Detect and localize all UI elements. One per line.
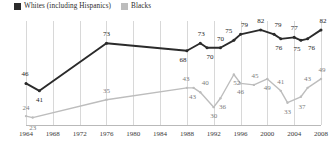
data-point-whites-2004 [293,36,296,39]
legend-label-blacks: Blacks [131,3,151,10]
legend-swatch-whites [14,3,21,10]
x-tick-1964: 1964 [19,131,33,138]
data-point-whites-1991 [206,46,209,49]
data-point-blacks-2002 [280,90,282,92]
x-tick-1988: 1988 [180,131,194,138]
series-lines [26,21,321,125]
value-label-blacks-1964: 24 [23,105,30,112]
data-point-whites-1999 [259,28,262,31]
data-point-whites-1964 [25,82,28,85]
value-label-whites-1966: 41 [36,96,43,103]
legend-swatch-blacks [121,3,128,10]
data-point-blacks-1989 [192,87,194,89]
value-label-blacks-1976: 35 [103,87,110,94]
x-tick-2000: 2000 [260,131,274,138]
data-point-whites-1993 [219,46,222,49]
value-label-whites-1996: 79 [241,22,248,29]
legend-item-blacks: Blacks [121,3,151,10]
value-label-blacks-1995: 52 [233,80,240,87]
data-point-blacks-1992 [213,106,215,108]
value-label-whites-2005: 75 [293,46,300,53]
plot-area: 4641736873707075798279767775768224233543… [26,21,321,125]
data-point-whites-1976 [105,42,108,45]
value-label-blacks-1996: 46 [237,89,244,96]
value-label-blacks-1998: 45 [251,72,258,79]
data-point-blacks-2000 [266,78,268,80]
value-label-whites-1999: 82 [257,17,264,24]
data-point-blacks-1995 [233,73,235,75]
data-point-whites-1990 [199,42,202,45]
value-label-whites-1964: 46 [22,71,29,78]
x-tick-1984: 1984 [153,131,167,138]
value-label-blacks-1992: 30 [210,113,217,120]
data-point-whites-2006 [306,37,309,40]
value-label-blacks-1988: 43 [182,75,189,82]
data-point-blacks-1965 [32,116,34,118]
x-tick-1972: 1972 [73,131,87,138]
x-axis-tick-labels: 1964196819721976198019841988199219962000… [26,131,321,145]
x-tick-1992: 1992 [207,131,221,138]
data-point-whites-1988 [185,49,188,52]
data-point-whites-2008 [320,28,323,31]
value-label-whites-2004: 77 [291,25,298,32]
value-label-whites-2001: 79 [275,22,282,29]
value-label-blacks-1993: 36 [219,104,226,111]
data-point-blacks-1976 [105,99,107,101]
value-label-whites-2002: 76 [275,44,282,51]
data-point-blacks-1964 [25,115,27,117]
value-label-blacks-2005: 37 [298,103,305,110]
x-axis-line [26,125,321,126]
data-point-blacks-2006 [306,87,308,89]
data-point-blacks-2005 [300,96,302,98]
value-label-blacks-1989: 43 [189,93,196,100]
data-point-whites-1995 [232,39,235,42]
value-label-blacks-2006: 43 [304,75,311,82]
legend-label-whites: Whites (including Hispanics) [24,3,111,10]
value-label-blacks-2002: 41 [277,78,284,85]
data-point-blacks-1990 [199,91,201,93]
value-label-whites-2006: 76 [308,44,315,51]
x-tick-2008: 2008 [314,131,328,138]
value-label-whites-1990: 73 [198,31,205,38]
x-tick-2004: 2004 [287,131,301,138]
data-point-whites-2005 [299,39,302,42]
value-label-blacks-2008: 49 [319,66,326,73]
x-tick-1996: 1996 [234,131,248,138]
data-point-blacks-2008 [320,78,322,80]
value-label-whites-1991: 70 [207,53,214,60]
value-label-blacks-2000: 49 [264,84,271,91]
x-tick-1980: 1980 [126,131,140,138]
data-point-whites-1966 [38,89,41,92]
data-point-blacks-1998 [253,84,255,86]
value-label-whites-1993: 70 [217,35,224,42]
value-label-blacks-2003: 33 [284,108,291,115]
value-label-blacks-1990: 40 [202,80,209,87]
data-point-blacks-1988 [186,87,188,89]
value-label-whites-1988: 68 [179,56,186,63]
data-point-whites-2002 [279,37,282,40]
legend-item-whites: Whites (including Hispanics) [14,3,111,10]
chart-legend: Whites (including Hispanics)Blacks [14,3,151,10]
data-point-blacks-2003 [286,102,288,104]
data-point-whites-2001 [273,33,276,36]
x-tick-1976: 1976 [99,131,113,138]
data-point-whites-1996 [239,33,242,36]
x-tick-1968: 1968 [46,131,60,138]
value-label-whites-1976: 73 [103,31,110,38]
value-label-whites-1995: 75 [225,28,232,35]
chart-container: Whites (including Hispanics)Blacks 46417… [0,0,335,155]
data-point-blacks-1993 [219,97,221,99]
value-label-whites-2008: 82 [320,17,327,24]
